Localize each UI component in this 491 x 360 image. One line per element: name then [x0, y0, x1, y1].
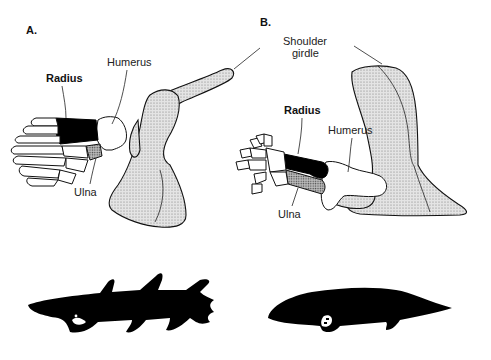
panel-b-radius-label: Radius — [284, 104, 321, 116]
shoulder-girdle-label-line2: girdle — [292, 47, 319, 59]
panel-a: A. Radius Humerus — [11, 24, 260, 227]
panel-a-shoulder-girdle — [109, 69, 233, 227]
panel-a-ulna-label: Ulna — [74, 186, 98, 198]
panel-b-humerus-label: Humerus — [328, 124, 373, 136]
fish-silhouette — [28, 273, 214, 332]
panel-b: B. Shoulder girdle — [236, 16, 467, 220]
panel-a-radius-bone — [55, 118, 98, 144]
panel-b-ulna-label: Ulna — [278, 208, 302, 220]
panel-a-radius-label: Radius — [46, 72, 83, 84]
fin-limb-comparison-diagram: A. Radius Humerus — [0, 0, 491, 360]
shoulder-girdle-label-line1: Shoulder — [283, 35, 327, 47]
panel-b-digits — [236, 134, 288, 194]
tetrapod-silhouette — [268, 288, 452, 332]
panel-a-humerus-label: Humerus — [107, 56, 152, 68]
panel-b-letter: B. — [260, 16, 271, 28]
panel-a-letter: A. — [26, 24, 37, 36]
